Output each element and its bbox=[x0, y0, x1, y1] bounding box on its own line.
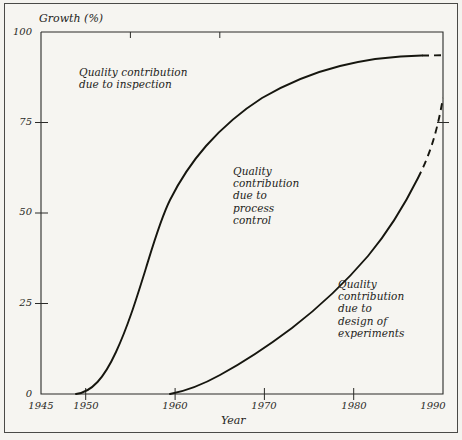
annotation-process-control: Quality contribution due to process cont… bbox=[233, 165, 299, 226]
x-axis-title: Year bbox=[221, 414, 246, 427]
x-tick-label-1970: 1970 bbox=[244, 400, 284, 411]
chart-plot-area bbox=[0, 0, 462, 440]
series-design-of-experiments-curve bbox=[170, 98, 443, 394]
x-axis-ticks-top bbox=[130, 32, 219, 38]
y-tick-label-25: 25 bbox=[6, 297, 32, 308]
x-tick-label-1945: 1945 bbox=[21, 400, 61, 411]
x-tick-label-1960: 1960 bbox=[155, 400, 195, 411]
x-tick-label-1990: 1990 bbox=[413, 400, 453, 411]
y-axis-title: Growth (%) bbox=[39, 12, 103, 25]
x-tick-label-1950: 1950 bbox=[66, 400, 106, 411]
y-tick-label-0: 0 bbox=[6, 388, 32, 399]
annotation-design-of-experiments: Quality contribution due to design of ex… bbox=[338, 278, 405, 339]
figure-container: Growth (%) Year 0 25 50 75 100 1945 1950… bbox=[0, 0, 462, 440]
y-tick-label-75: 75 bbox=[6, 116, 32, 127]
annotation-inspection: Quality contribution due to inspection bbox=[79, 66, 188, 90]
y-tick-label-50: 50 bbox=[6, 206, 32, 217]
x-tick-label-1980: 1980 bbox=[334, 400, 374, 411]
y-tick-label-100: 100 bbox=[6, 26, 32, 37]
